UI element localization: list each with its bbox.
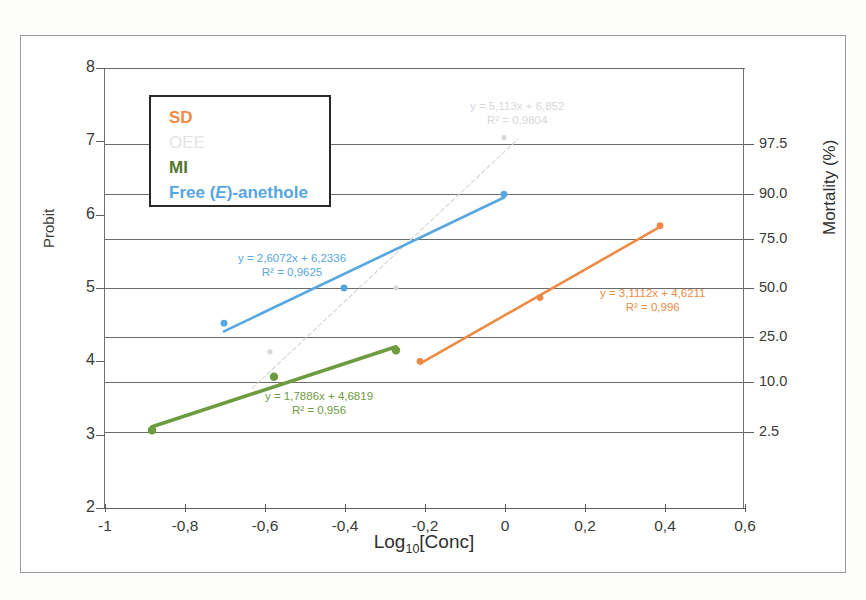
legend-label-oee: OEE bbox=[169, 133, 205, 152]
x-axis-tick bbox=[505, 504, 506, 512]
right-axis-tick-label: 50.0 bbox=[759, 280, 811, 295]
right-axis-tick-label: 25.0 bbox=[759, 329, 811, 344]
y-axis-tick-label: 2 bbox=[55, 499, 95, 515]
x-axis-tick-label: 0 bbox=[475, 518, 535, 534]
r-squared-text: R² = 0,956 bbox=[265, 404, 373, 418]
legend-item-sd[interactable]: SD bbox=[169, 105, 329, 130]
r-squared-text: R² = 0,996 bbox=[600, 301, 706, 315]
equation-label: y = 3,1112x + 4,6211R² = 0,996 bbox=[600, 287, 706, 314]
right-axis-tick-label: 75.0 bbox=[759, 231, 811, 246]
right-axis-tick bbox=[745, 337, 754, 338]
gridline bbox=[105, 432, 745, 433]
x-axis-tick-label: 0,2 bbox=[555, 518, 615, 534]
gridline bbox=[105, 382, 745, 383]
y-axis-tick bbox=[96, 435, 105, 436]
legend-item-mi[interactable]: MI bbox=[169, 155, 329, 180]
right-axis-tick-label: 10.0 bbox=[759, 374, 811, 389]
x-axis-title-sub: 10 bbox=[405, 542, 419, 556]
right-axis-title: Mortality (%) bbox=[820, 140, 840, 235]
y-axis-tick bbox=[96, 215, 105, 216]
x-axis-tick bbox=[105, 504, 106, 512]
x-axis-tick-label: -0,2 bbox=[395, 518, 455, 534]
right-axis-tick bbox=[745, 432, 754, 433]
x-axis-tick-label: -1 bbox=[75, 518, 135, 534]
legend-label-free-anethole-italic: E bbox=[215, 183, 226, 202]
y-axis-tick-label: 5 bbox=[55, 279, 95, 295]
y-axis-tick bbox=[96, 508, 105, 509]
gridline bbox=[105, 239, 745, 240]
equation-text: y = 3,1112x + 4,6211 bbox=[600, 287, 706, 301]
right-axis-tick-label: 2.5 bbox=[759, 424, 811, 439]
x-axis-tick-label: 0,4 bbox=[635, 518, 695, 534]
gridline bbox=[105, 337, 745, 338]
x-axis-tick-label: -0,8 bbox=[155, 518, 215, 534]
right-axis-tick bbox=[745, 382, 754, 383]
legend-label-free-anethole-pre: Free ( bbox=[169, 183, 215, 202]
x-axis-title: Log10[Conc] bbox=[104, 531, 744, 556]
right-axis-tick bbox=[745, 288, 754, 289]
x-axis-tick bbox=[345, 504, 346, 512]
y-axis-tick-label: 6 bbox=[55, 206, 95, 222]
y-axis-tick bbox=[96, 288, 105, 289]
y-axis-tick bbox=[96, 68, 105, 69]
legend-item-oee[interactable]: OEE bbox=[169, 130, 329, 155]
legend-item-free-anethole[interactable]: Free (E)-anethole bbox=[169, 180, 329, 205]
y-axis-tick bbox=[96, 361, 105, 362]
right-axis-tick-label: 97.5 bbox=[759, 136, 811, 151]
legend-label-sd: SD bbox=[169, 108, 193, 127]
r-squared-text: R² = 0,9804 bbox=[470, 114, 564, 128]
legend: SD OEE MI Free (E)-anethole bbox=[149, 95, 331, 207]
right-axis-tick-label: 90.0 bbox=[759, 186, 811, 201]
x-axis-tick-label: 0,6 bbox=[715, 518, 775, 534]
right-axis-tick bbox=[745, 194, 754, 195]
x-axis-tick bbox=[585, 504, 586, 512]
y-axis-tick bbox=[96, 141, 105, 142]
y-axis-tick-label: 3 bbox=[55, 426, 95, 442]
chart-page: Probit Mortality (%) Log10[Conc] 2345678… bbox=[0, 0, 866, 600]
x-axis-tick bbox=[745, 504, 746, 512]
equation-text: y = 2,6072x + 6,2336 bbox=[238, 252, 346, 266]
x-axis-title-base: Log bbox=[374, 531, 406, 552]
y-axis-tick-label: 4 bbox=[55, 352, 95, 368]
y-axis-tick-label: 8 bbox=[55, 59, 95, 75]
equation-text: y = 5,113x + 6,852 bbox=[470, 100, 564, 114]
x-axis-tick-label: -0,6 bbox=[235, 518, 295, 534]
equation-label: y = 2,6072x + 6,2336R² = 0,9625 bbox=[238, 252, 346, 279]
x-axis-tick bbox=[185, 504, 186, 512]
x-axis-tick bbox=[665, 504, 666, 512]
equation-label: y = 1,7886x + 4,6819R² = 0,956 bbox=[265, 390, 373, 417]
right-axis-tick bbox=[745, 144, 754, 145]
r-squared-text: R² = 0,9625 bbox=[238, 266, 346, 280]
legend-label-free-anethole-post: )-anethole bbox=[227, 183, 308, 202]
x-axis-tick bbox=[265, 504, 266, 512]
equation-text: y = 1,7886x + 4,6819 bbox=[265, 390, 373, 404]
plot-top-border bbox=[105, 68, 745, 69]
x-axis-tick bbox=[425, 504, 426, 512]
x-axis-title-rest: [Conc] bbox=[419, 531, 474, 552]
equation-label: y = 5,113x + 6,852R² = 0,9804 bbox=[470, 100, 564, 127]
right-axis-tick bbox=[745, 239, 754, 240]
x-axis-tick-label: -0,4 bbox=[315, 518, 375, 534]
y-axis-tick-label: 7 bbox=[55, 132, 95, 148]
legend-label-mi: MI bbox=[169, 158, 188, 177]
